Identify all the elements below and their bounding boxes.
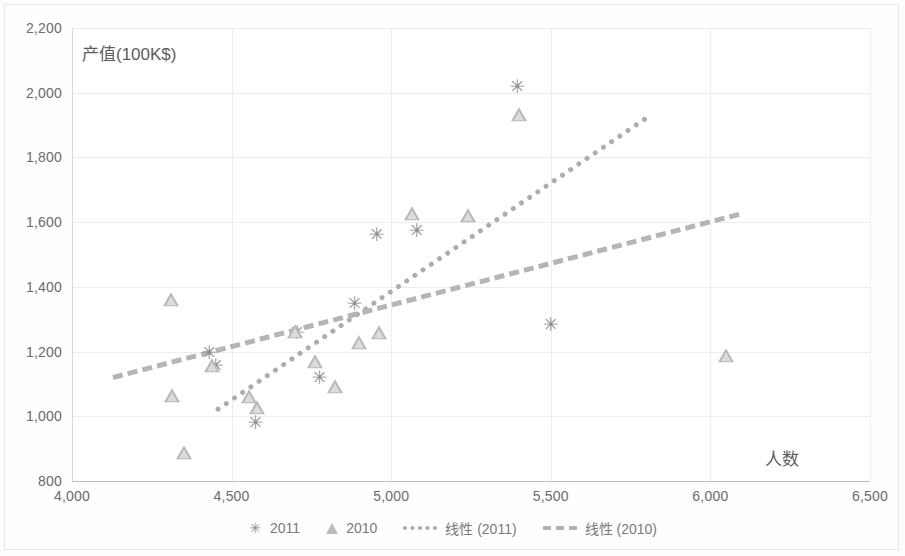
trendline-2011 — [214, 116, 648, 413]
data-point-2010 — [307, 354, 323, 368]
gridline-horizontal — [72, 287, 870, 288]
gridline-vertical — [551, 28, 552, 481]
gridline-vertical — [391, 28, 392, 481]
legend-marker-dotted-line-icon — [403, 526, 437, 530]
x-axis-tick-label: 4,500 — [192, 488, 272, 504]
data-point-2010 — [287, 324, 303, 338]
chart-legend: ✳20112010线性 (2011)线性 (2010) — [0, 518, 905, 538]
y-axis-line — [72, 28, 73, 481]
x-axis-title: 人数 — [765, 445, 799, 470]
data-point-2010 — [163, 292, 179, 306]
data-point-2010 — [460, 208, 476, 222]
y-axis-tick-label: 1,600 — [2, 214, 62, 230]
legend-item-label: 线性 (2011) — [445, 518, 516, 538]
legend-item[interactable]: 线性 (2010) — [543, 518, 657, 538]
y-axis-tick-label: 1,200 — [2, 344, 62, 360]
data-point-2010 — [204, 358, 220, 372]
legend-marker-triangle-icon — [326, 523, 338, 534]
x-axis-line — [72, 481, 870, 482]
x-axis-tick-label: 6,000 — [670, 488, 750, 504]
legend-item[interactable]: 2010 — [326, 520, 377, 536]
y-axis-tick-label: 2,200 — [2, 20, 62, 36]
gridline-horizontal — [72, 416, 870, 417]
data-point-2010 — [404, 206, 420, 220]
gridline-vertical — [870, 28, 871, 481]
x-axis-tick-label: 4,000 — [32, 488, 112, 504]
data-point-2011: ✳ — [311, 368, 328, 385]
gridline-horizontal — [72, 157, 870, 158]
legend-item-label: 2011 — [270, 520, 300, 536]
legend-item[interactable]: ✳2011 — [248, 520, 300, 536]
gridline-horizontal — [72, 352, 870, 353]
gridline-horizontal — [72, 28, 870, 29]
data-point-2010 — [351, 335, 367, 349]
legend-item[interactable]: 线性 (2011) — [403, 518, 516, 538]
gridline-vertical — [710, 28, 711, 481]
x-axis-tick-label: 5,000 — [351, 488, 431, 504]
data-point-2010 — [164, 389, 180, 403]
legend-item-label: 线性 (2010) — [585, 518, 657, 538]
gridline-vertical — [232, 28, 233, 481]
data-point-2010 — [718, 349, 734, 363]
legend-item-label: 2010 — [346, 520, 377, 536]
data-point-2010 — [176, 445, 192, 459]
y-axis-tick-label: 1,400 — [2, 279, 62, 295]
y-axis-title: 产值(100K$) — [82, 40, 176, 65]
data-point-2011: ✳ — [368, 226, 385, 243]
x-axis-tick-label: 5,500 — [511, 488, 591, 504]
data-point-2011: ✳ — [346, 295, 363, 312]
data-point-2011: ✳ — [408, 222, 425, 239]
gridline-horizontal — [72, 93, 870, 94]
plot-area: ✳✳✳✳✳✳✳✳✳✳ — [72, 28, 870, 481]
data-point-2010 — [371, 325, 387, 339]
data-point-2010 — [511, 107, 527, 121]
x-axis-tick-label: 6,500 — [830, 488, 905, 504]
data-point-2011: ✳ — [509, 78, 526, 95]
scatter-chart: ✳✳✳✳✳✳✳✳✳✳ 8001,0001,2001,4001,6001,8002… — [0, 0, 905, 556]
legend-marker-dashed-line-icon — [543, 526, 577, 530]
y-axis-tick-label: 2,000 — [2, 85, 62, 101]
legend-marker-x-icon: ✳ — [248, 521, 262, 535]
y-axis-tick-label: 800 — [2, 473, 62, 489]
data-point-2011: ✳ — [542, 316, 559, 333]
data-point-2010 — [327, 379, 343, 393]
data-point-2011: ✳ — [247, 414, 264, 431]
y-axis-tick-label: 1,800 — [2, 149, 62, 165]
y-axis-tick-label: 1,000 — [2, 408, 62, 424]
gridline-horizontal — [72, 222, 870, 223]
data-point-2010 — [249, 400, 265, 414]
